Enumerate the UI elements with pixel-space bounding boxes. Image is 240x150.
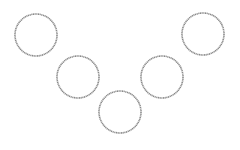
diagram-canvas xyxy=(0,0,240,150)
circle-2 xyxy=(57,56,99,98)
circle-5 xyxy=(182,13,224,55)
circle-4 xyxy=(141,56,183,98)
circle-3 xyxy=(99,91,141,133)
circle-1 xyxy=(15,14,57,56)
